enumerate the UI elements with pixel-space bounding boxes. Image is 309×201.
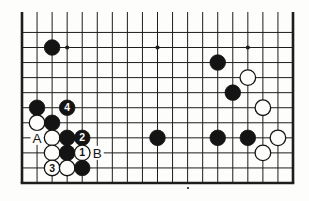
- white-stone: [255, 145, 271, 161]
- black-stone: [225, 85, 241, 101]
- point-label: A: [33, 131, 42, 146]
- point-label: B: [93, 146, 102, 161]
- black-stone: [74, 160, 90, 176]
- black-stone: [29, 100, 45, 116]
- star-point: [65, 45, 69, 49]
- white-stone: [240, 70, 256, 86]
- black-stone: [210, 55, 226, 71]
- move-number: 2: [79, 131, 85, 143]
- scanned-page: 4213AB: [0, 0, 309, 201]
- black-stone: [59, 145, 75, 161]
- black-stone: [150, 130, 166, 146]
- print-speck: [187, 187, 189, 189]
- move-number: 3: [49, 162, 55, 174]
- move-number: 1: [79, 146, 85, 158]
- black-stone: [240, 130, 256, 146]
- white-stone: [44, 130, 60, 146]
- move-number: 4: [64, 101, 70, 113]
- go-board-diagram: 4213AB: [0, 0, 309, 201]
- white-stone: [44, 145, 60, 161]
- white-stone: [29, 115, 45, 131]
- white-stone: [255, 100, 271, 116]
- black-stone: [210, 130, 226, 146]
- white-stone: [270, 130, 286, 146]
- star-point: [246, 45, 250, 49]
- black-stone: [59, 130, 75, 146]
- black-stone: [44, 40, 60, 56]
- star-point: [155, 45, 159, 49]
- white-stone: [59, 160, 75, 176]
- black-stone: [44, 115, 60, 131]
